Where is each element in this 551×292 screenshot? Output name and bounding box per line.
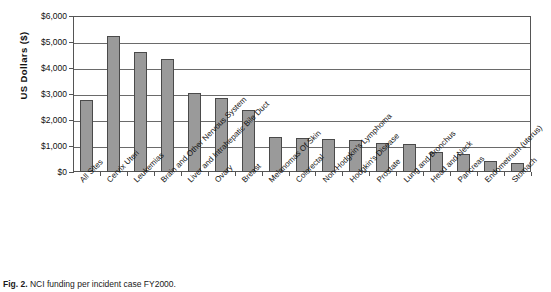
bar bbox=[80, 100, 93, 172]
x-axis-tick-mark bbox=[181, 172, 182, 176]
x-axis-tick-mark bbox=[289, 172, 290, 176]
y-axis-tick-mark bbox=[69, 172, 74, 173]
bar bbox=[215, 98, 228, 172]
x-axis-tick-mark bbox=[315, 172, 316, 176]
figure-caption-text: NCI funding per incident case FY2000. bbox=[30, 279, 176, 289]
x-axis-tick-mark bbox=[262, 172, 263, 176]
figure-caption: Fig. 2. NCI funding per incident case FY… bbox=[3, 279, 176, 289]
y-axis-tick-label: $2,000 bbox=[15, 115, 67, 125]
bar bbox=[188, 93, 201, 172]
y-axis-tick-label: $3,000 bbox=[15, 89, 67, 99]
x-axis-tick-mark bbox=[423, 172, 424, 176]
x-axis-tick-mark bbox=[342, 172, 343, 176]
x-axis-tick-mark bbox=[477, 172, 478, 176]
x-axis-tick-mark bbox=[531, 172, 532, 176]
x-axis-tick-mark bbox=[100, 172, 101, 176]
y-axis-tick-label: $1,000 bbox=[15, 141, 67, 151]
x-axis-tick-mark bbox=[208, 172, 209, 176]
x-axis-tick-mark bbox=[154, 172, 155, 176]
y-axis-tick-label: $6,000 bbox=[15, 11, 67, 21]
y-axis-tick-label: $5,000 bbox=[15, 37, 67, 47]
bar bbox=[107, 36, 120, 172]
x-axis-tick-mark bbox=[127, 172, 128, 176]
x-axis-tick-mark bbox=[369, 172, 370, 176]
x-axis-tick-mark bbox=[504, 172, 505, 176]
x-axis-tick-mark bbox=[235, 172, 236, 176]
y-axis-tick-label: $4,000 bbox=[15, 63, 67, 73]
x-axis-tick-mark bbox=[450, 172, 451, 176]
figure-nci-funding-bar-chart: US Dollars ($) $6,000$5,000$4,000$3,000$… bbox=[0, 0, 551, 292]
y-axis-tick-label: $0 bbox=[15, 167, 67, 177]
figure-caption-number: Fig. 2. bbox=[3, 279, 28, 289]
x-axis-tick-mark bbox=[396, 172, 397, 176]
